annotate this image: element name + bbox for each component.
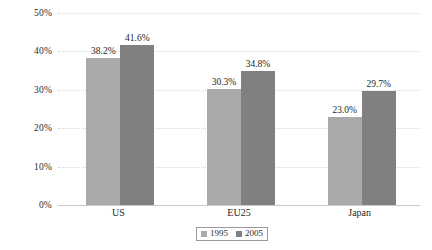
legend-swatch-1995: [201, 231, 207, 237]
axis-baseline: [58, 205, 420, 206]
bar-value-label: 41.6%: [125, 33, 150, 43]
category-label-us: US: [58, 207, 179, 218]
bar-group: 23.0%29.7%: [328, 13, 396, 205]
bar-eu25-1995[interactable]: 30.3%: [207, 89, 241, 205]
y-axis-tick-label: 0%: [39, 200, 52, 210]
bar-us-1995[interactable]: 38.2%: [86, 58, 120, 205]
legend-item-1995[interactable]: 1995: [201, 229, 228, 238]
bar-value-label: 29.7%: [366, 79, 391, 89]
y-axis-tick-label: 10%: [34, 162, 52, 172]
bar-chart: 0%10%20%30%40%50% 38.2%41.6%30.3%34.8%23…: [0, 0, 432, 250]
y-axis-tick-label: 50%: [34, 8, 52, 18]
legend-item-2005[interactable]: 2005: [236, 229, 263, 238]
y-axis-tick-label: 40%: [34, 46, 52, 56]
legend-label-2005: 2005: [245, 229, 263, 238]
category-label-japan: Japan: [299, 207, 420, 218]
bar-groups: 38.2%41.6%30.3%34.8%23.0%29.7%: [58, 13, 420, 205]
bar-group: 38.2%41.6%: [86, 13, 154, 205]
bar-japan-2005[interactable]: 29.7%: [362, 91, 396, 205]
y-axis-tick-label: 30%: [34, 85, 52, 95]
bar-japan-1995[interactable]: 23.0%: [328, 117, 362, 205]
bar-us-2005[interactable]: 41.6%: [120, 45, 154, 205]
bar-value-label: 30.3%: [212, 77, 237, 87]
bar-value-label: 34.8%: [246, 59, 271, 69]
bar-value-label: 38.2%: [91, 46, 116, 56]
x-axis-category-labels: USEU25Japan: [58, 207, 420, 225]
legend-label-1995: 1995: [210, 229, 228, 238]
legend-swatch-2005: [236, 231, 242, 237]
y-axis: 0%10%20%30%40%50%: [0, 13, 52, 205]
y-axis-tick-label: 20%: [34, 123, 52, 133]
category-label-eu25: EU25: [179, 207, 300, 218]
bar-group: 30.3%34.8%: [207, 13, 275, 205]
bar-value-label: 23.0%: [332, 105, 357, 115]
chart-legend: 1995 2005: [196, 227, 268, 241]
bar-eu25-2005[interactable]: 34.8%: [241, 71, 275, 205]
